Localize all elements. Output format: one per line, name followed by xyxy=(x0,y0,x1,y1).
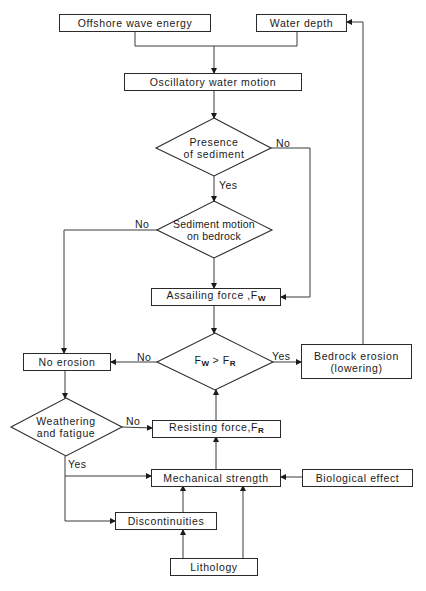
node-mechanical-strength: Mechanical strength xyxy=(151,469,281,487)
node-label: Assailing force ,FW xyxy=(167,289,266,305)
node-label: No erosion xyxy=(39,356,96,368)
node-oscillatory-water-motion: Oscillatory water motion xyxy=(124,73,302,91)
node-assailing-force: Assailing force ,FW xyxy=(151,288,281,306)
node-label-line2: of sediment xyxy=(184,148,245,160)
edge-label-presence-no: No xyxy=(276,138,290,149)
node-water-depth: Water depth xyxy=(256,14,347,32)
node-label-line1: Presence xyxy=(189,136,238,148)
node-label-line2: and fatigue xyxy=(37,427,96,439)
node-label-line2: (lowering) xyxy=(330,362,382,374)
node-bedrock-erosion: Bedrock erosion (lowering) xyxy=(301,344,412,379)
node-label: Biological effect xyxy=(316,472,400,484)
node-label-line1: Weathering xyxy=(36,415,96,427)
node-label: Water depth xyxy=(270,17,333,29)
node-no-erosion: No erosion xyxy=(23,353,111,371)
node-weathering-and-fatigue: Weathering and fatigue xyxy=(22,413,110,441)
node-label-line1: Bedrock erosion xyxy=(314,350,399,362)
edge-label-comparison-yes: Yes xyxy=(272,351,290,362)
edge-label-sediment-motion-no: No xyxy=(135,219,149,230)
node-discontinuities: Discontinuities xyxy=(115,512,217,530)
edge-label-presence-yes: Yes xyxy=(219,180,237,191)
node-label: Oscillatory water motion xyxy=(150,76,276,88)
node-label: Resisting force,FR xyxy=(169,421,264,437)
node-label: FW > FR xyxy=(194,354,235,370)
node-resisting-force: Resisting force,FR xyxy=(152,420,281,438)
node-offshore-wave-energy: Offshore wave energy xyxy=(59,14,211,32)
flowchart: Offshore wave energy Water depth Oscilla… xyxy=(0,0,426,591)
node-force-comparison: FW > FR xyxy=(175,354,255,370)
node-label: Offshore wave energy xyxy=(78,17,193,29)
node-label: Mechanical strength xyxy=(163,472,268,484)
node-sediment-motion: Sediment motion on bedrock xyxy=(164,216,264,244)
node-label-line1: Sediment motion xyxy=(173,218,255,230)
edge-label-weathering-yes: Yes xyxy=(68,459,86,470)
node-biological-effect: Biological effect xyxy=(302,469,413,487)
node-label: Lithology xyxy=(190,561,237,573)
node-lithology: Lithology xyxy=(170,558,258,576)
node-presence-of-sediment: Presence of sediment xyxy=(166,134,262,162)
node-label-line2: on bedrock xyxy=(187,230,241,242)
node-label: Discontinuities xyxy=(128,515,205,527)
edge-label-weathering-no: No xyxy=(126,416,140,427)
edge-label-comparison-no: No xyxy=(137,352,151,363)
